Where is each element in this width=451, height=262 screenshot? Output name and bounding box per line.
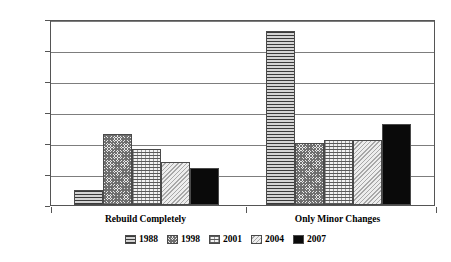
legend-swatch-2004 [251, 235, 262, 244]
bar-2001-1 [132, 149, 161, 205]
legend-swatch-1988 [125, 235, 136, 244]
bar-2004-2 [353, 140, 382, 205]
gridline [51, 114, 434, 115]
legend-item-1988[interactable]: 1988 [125, 234, 158, 244]
y-axis-tick-mark [45, 206, 50, 207]
bar-1988-2 [266, 31, 295, 205]
legend-label-2001: 2001 [223, 234, 242, 244]
bar-1998-2 [295, 143, 324, 205]
plot-area [50, 20, 435, 206]
gridline [51, 52, 434, 53]
category-tick [436, 207, 437, 213]
bar-1988-1 [74, 190, 103, 206]
legend-swatch-2001 [209, 235, 220, 244]
legend-label-2004: 2004 [265, 234, 284, 244]
bar-2007-2 [382, 124, 411, 205]
legend-item-1998[interactable]: 1998 [167, 234, 200, 244]
bar-2001-2 [324, 140, 353, 205]
bar-chart: Public Opinion (Percent) 0102030405060 R… [0, 0, 451, 262]
bar-2007-1 [190, 168, 219, 205]
bar-1998-1 [103, 134, 132, 205]
gridline [51, 21, 434, 22]
category-tick [51, 207, 52, 213]
legend: 19881998200120042007 [0, 234, 451, 244]
legend-item-2004[interactable]: 2004 [251, 234, 284, 244]
bar-2004-1 [161, 162, 190, 205]
category-label-1: Rebuild Completely [66, 214, 226, 224]
category-label-2: Only Minor Changes [258, 214, 418, 224]
legend-swatch-2007 [293, 235, 304, 244]
gridline [51, 83, 434, 84]
legend-swatch-1998 [167, 235, 178, 244]
legend-label-1988: 1988 [139, 234, 158, 244]
legend-item-2007[interactable]: 2007 [293, 234, 326, 244]
legend-label-1998: 1998 [181, 234, 200, 244]
legend-item-2001[interactable]: 2001 [209, 234, 242, 244]
category-tick [246, 207, 247, 213]
legend-label-2007: 2007 [307, 234, 326, 244]
